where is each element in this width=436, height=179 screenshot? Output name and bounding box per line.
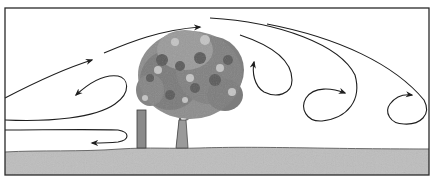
diagram-canvas xyxy=(0,0,436,179)
wind-diagram xyxy=(0,0,436,179)
windbreak-post xyxy=(137,110,146,148)
ground-strip xyxy=(5,147,429,175)
